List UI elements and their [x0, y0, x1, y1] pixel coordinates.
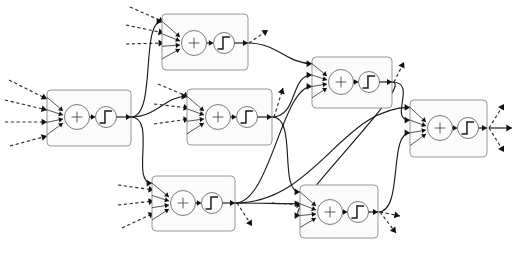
neuron-deep-top-activation-node[interactable]: [359, 72, 380, 93]
diagram-canvas: [0, 0, 516, 255]
edge-n4-n7-arrow-icon: [405, 104, 410, 111]
input-arrow-n1-3-arrow-icon: [42, 119, 47, 126]
edge-n1-n2: [131, 21, 162, 117]
neuron-hidden-bottom[interactable]: [152, 176, 235, 231]
edge-n1-n4: [131, 117, 152, 183]
output-arrow-n4-down-arrow-icon: [246, 219, 252, 226]
edge-n2-n5-arrow-icon: [307, 60, 312, 67]
edge-n3-n5-arrow-icon: [307, 72, 312, 79]
input-arrow-n1-2: [5, 100, 47, 110]
neuron-hidden-top[interactable]: [162, 14, 248, 70]
output-arrow-n6-right-arrow-icon: [394, 211, 400, 218]
edge-n1-n4-arrow-icon: [147, 180, 152, 187]
neuron-hidden-bottom-activation-node[interactable]: [202, 193, 223, 214]
edge-n3-n5: [272, 75, 312, 117]
input-arrow-n1-4: [10, 136, 47, 146]
output-arrow-n7-up-arrow-icon: [498, 104, 504, 111]
neuron-hidden-top-activation-node[interactable]: [214, 33, 235, 54]
edge-n3-n6: [272, 117, 300, 192]
edge-n6-n7: [378, 133, 410, 212]
edge-n4-n5-arrow-icon: [307, 83, 312, 90]
input-arrow-n1-1: [9, 80, 47, 99]
neuron-hidden-middle[interactable]: [187, 89, 272, 145]
neuron-deep-bottom[interactable]: [300, 185, 378, 238]
output-arrow-n7-down-arrow-icon: [498, 145, 504, 152]
edge-n2-n5: [248, 43, 312, 64]
input-arrow-n1-2-arrow-icon: [41, 105, 47, 112]
output-arrow-n7-right-arrow-icon: [506, 125, 512, 132]
neuron-input-left[interactable]: [47, 90, 131, 146]
neuron-output[interactable]: [410, 100, 487, 157]
neuron-hidden-middle-activation-node[interactable]: [237, 107, 258, 128]
edge-n3-n6-arrow-icon: [295, 189, 300, 196]
output-arrow-n2-up-arrow-icon: [261, 30, 268, 36]
output-arrow-n6-down-arrow-icon: [390, 226, 396, 233]
edge-n4-n6: [235, 203, 300, 204]
neuron-deep-bottom-activation-node[interactable]: [348, 202, 369, 223]
input-arrow-n4-1: [118, 185, 154, 190]
input-arrow-n2-2: [126, 25, 164, 33]
edge-n6-n7-arrow-icon: [405, 130, 410, 137]
output-arrow-n5-up-arrow-icon: [398, 62, 404, 69]
edge-n5-n7-arrow-icon: [405, 117, 410, 124]
input-arrow-n2-1: [130, 7, 164, 22]
input-arrow-n1-4-arrow-icon: [41, 134, 47, 140]
neuron-output-activation-node[interactable]: [458, 118, 479, 139]
neural-network-diagram: [0, 0, 516, 255]
input-arrow-n4-2: [118, 201, 154, 205]
neuron-deep-top[interactable]: [312, 57, 392, 108]
input-arrow-n2-3: [126, 43, 164, 44]
neuron-input-left-activation-node[interactable]: [96, 107, 117, 128]
node-layer: [47, 14, 487, 238]
